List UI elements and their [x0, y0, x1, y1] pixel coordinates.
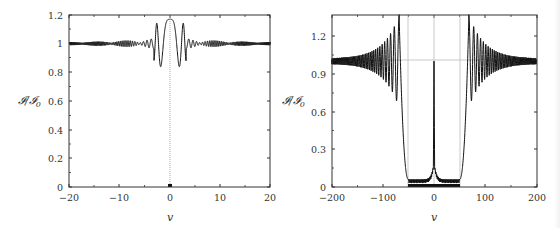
left-y-tick-label: 0.4 — [48, 125, 63, 136]
right-y-tick-label: 1.2 — [311, 31, 326, 42]
left-y-axis-label: 𝓘/𝓘0 — [18, 94, 41, 109]
right-chart-panel: −200−1000100200 00.30.60.91.2 v 𝓘/𝓘0 — [280, 0, 560, 228]
left-y-tick-label: 0 — [57, 182, 63, 193]
left-plot: −20−1001020 00.20.40.60.811.2 v 𝓘/𝓘0 — [0, 0, 280, 228]
left-x-tick-label: −10 — [109, 192, 129, 203]
right-x-tick-label: −200 — [319, 192, 345, 203]
left-y-tick-label: 0.6 — [48, 96, 63, 107]
left-y-tick-labels: 00.20.40.60.811.2 — [48, 10, 63, 193]
left-y-tick-label: 1 — [57, 38, 63, 49]
right-x-tick-label: −100 — [370, 192, 396, 203]
left-y-tick-label: 0.2 — [48, 153, 63, 164]
right-y-tick-label: 0.9 — [311, 69, 326, 80]
left-x-tick-labels: −20−1001020 — [59, 192, 276, 203]
left-x-tick-label: 10 — [214, 192, 226, 203]
right-x-axis-label: v — [431, 211, 438, 224]
left-x-tick-label: −20 — [59, 192, 79, 203]
right-x-tick-labels: −200−1000100200 — [319, 192, 546, 203]
right-y-tick-label: 0 — [320, 182, 326, 193]
left-x-tick-label: 20 — [264, 192, 276, 203]
right-y-tick-label: 0.6 — [311, 107, 326, 118]
page-edge-shadow — [554, 0, 560, 228]
right-y-axis-label: 𝓘/𝓘0 — [282, 94, 305, 109]
left-y-tick-label: 0.8 — [48, 67, 63, 78]
left-y-tick-label: 1.2 — [48, 10, 63, 21]
right-y-tick-label: 0.3 — [311, 144, 326, 155]
right-y-tick-labels: 00.30.60.91.2 — [311, 31, 326, 193]
right-x-tick-label: 100 — [476, 192, 494, 203]
right-plot: −200−1000100200 00.30.60.91.2 v 𝓘/𝓘0 — [280, 0, 560, 228]
left-x-axis-label: v — [167, 211, 174, 224]
right-x-tick-label: 200 — [528, 192, 546, 203]
right-x-tick-label: 0 — [431, 192, 437, 203]
left-chart-panel: −20−1001020 00.20.40.60.811.2 v 𝓘/𝓘0 — [0, 0, 280, 228]
left-x-tick-label: 0 — [167, 192, 173, 203]
